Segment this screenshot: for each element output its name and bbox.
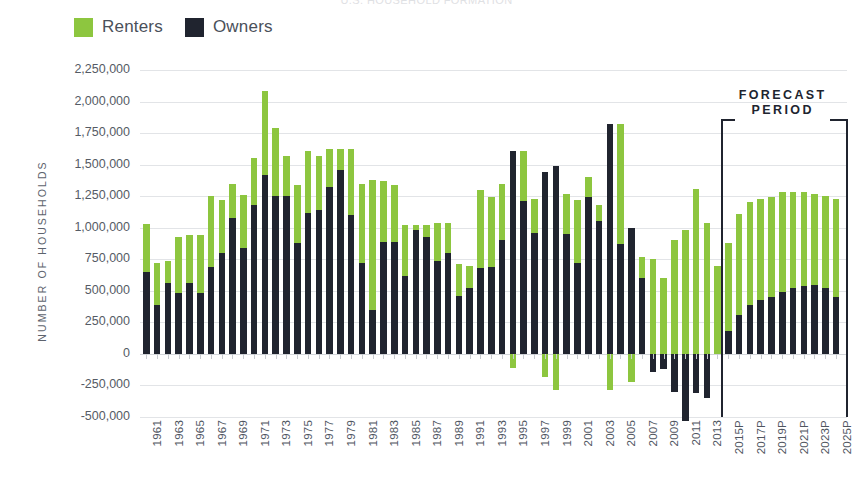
x-axis-label: 2007 xyxy=(647,420,659,446)
bar-column[interactable] xyxy=(573,70,584,417)
x-axis-label: 1997 xyxy=(539,420,551,446)
bar-column[interactable] xyxy=(692,70,703,417)
x-axis-tick-mark xyxy=(232,354,233,359)
bar-column[interactable] xyxy=(368,70,379,417)
bar-column[interactable] xyxy=(455,70,466,417)
y-axis-tick-label: 750,000 xyxy=(20,251,130,265)
plot-area: 2,250,0002,000,0001,750,0001,500,0001,25… xyxy=(140,70,847,417)
x-axis-label: 1969 xyxy=(237,420,249,446)
bar-segment-renters xyxy=(639,257,646,278)
bar-column[interactable] xyxy=(217,70,228,417)
bar-segment-renters xyxy=(369,180,376,310)
bar-column[interactable] xyxy=(530,70,541,417)
bar-column[interactable] xyxy=(228,70,239,417)
bar-column[interactable] xyxy=(444,70,455,417)
bar-segment-renters xyxy=(434,223,441,261)
bar-column[interactable] xyxy=(519,70,530,417)
bar-column[interactable] xyxy=(649,70,660,417)
x-axis-tick-mark xyxy=(276,354,277,359)
bar-column[interactable] xyxy=(358,70,369,417)
bar-column[interactable] xyxy=(390,70,401,417)
bar-column[interactable] xyxy=(207,70,218,417)
bar-column[interactable] xyxy=(562,70,573,417)
bar-column[interactable] xyxy=(584,70,595,417)
bar-column[interactable] xyxy=(476,70,487,417)
bar-segment-owners xyxy=(574,263,581,354)
bar-column[interactable] xyxy=(605,70,616,417)
bar-segment-renters xyxy=(348,149,355,215)
legend-item-renters[interactable]: Renters xyxy=(74,17,163,37)
x-axis-tick-mark xyxy=(189,354,190,359)
bar-column[interactable] xyxy=(239,70,250,417)
y-axis-tick-label: 2,000,000 xyxy=(20,94,130,108)
bar-column[interactable] xyxy=(250,70,261,417)
bar-column[interactable] xyxy=(552,70,563,417)
bar-column[interactable] xyxy=(638,70,649,417)
bar-column[interactable] xyxy=(185,70,196,417)
bar-column[interactable] xyxy=(681,70,692,417)
bar-column[interactable] xyxy=(293,70,304,417)
legend-item-owners[interactable]: Owners xyxy=(185,17,273,37)
bar-column[interactable] xyxy=(411,70,422,417)
bar-column[interactable] xyxy=(487,70,498,417)
bar-column[interactable] xyxy=(282,70,293,417)
x-axis-tick-mark xyxy=(556,354,557,359)
bar-segment-renters xyxy=(488,197,495,266)
chart-legend: Renters Owners xyxy=(74,17,273,37)
bar-column[interactable] xyxy=(541,70,552,417)
bar-segment-owners xyxy=(380,242,387,354)
bar-segment-renters xyxy=(574,200,581,263)
bar-segment-renters xyxy=(359,184,366,263)
x-axis-label: 1981 xyxy=(367,420,379,446)
bar-column[interactable] xyxy=(433,70,444,417)
bar-column[interactable] xyxy=(422,70,433,417)
legend-swatch-renters xyxy=(74,18,93,37)
bar-column[interactable] xyxy=(670,70,681,417)
bar-column[interactable] xyxy=(153,70,164,417)
bar-column[interactable] xyxy=(627,70,638,417)
bar-segment-owners xyxy=(596,221,603,353)
x-axis-tick-mark xyxy=(534,354,535,359)
x-axis-tick-mark xyxy=(545,354,546,359)
bar-column[interactable] xyxy=(616,70,627,417)
bar-column[interactable] xyxy=(401,70,412,417)
bar-column[interactable] xyxy=(379,70,390,417)
bar-column[interactable] xyxy=(498,70,509,417)
bar-segment-owners xyxy=(283,196,290,354)
x-axis-tick-mark xyxy=(394,354,395,359)
bar-segment-owners xyxy=(456,296,463,354)
bar-column[interactable] xyxy=(336,70,347,417)
x-axis-label: 1965 xyxy=(194,420,206,446)
bar-segment-owners xyxy=(337,170,344,354)
x-axis-labels: 1961196319651967196919711973197519771979… xyxy=(140,420,853,482)
x-axis-tick-mark xyxy=(664,354,665,359)
bar-segment-owners xyxy=(197,293,204,354)
bar-column[interactable] xyxy=(304,70,315,417)
bar-segment-renters xyxy=(499,184,506,241)
bar-segment-renters xyxy=(154,263,161,305)
bar-segment-renters xyxy=(251,158,258,205)
bar-column[interactable] xyxy=(595,70,606,417)
bar-column[interactable] xyxy=(347,70,358,417)
bar-column[interactable] xyxy=(325,70,336,417)
x-axis-tick-mark xyxy=(265,354,266,359)
bar-column[interactable] xyxy=(271,70,282,417)
x-axis-tick-mark xyxy=(448,354,449,359)
bar-column[interactable] xyxy=(508,70,519,417)
bar-column[interactable] xyxy=(142,70,153,417)
bar-column[interactable] xyxy=(174,70,185,417)
bar-column[interactable] xyxy=(164,70,175,417)
bar-column[interactable] xyxy=(314,70,325,417)
y-axis-tick-label: 1,500,000 xyxy=(20,157,130,171)
x-axis-tick-mark xyxy=(254,354,255,359)
bar-column[interactable] xyxy=(702,70,713,417)
y-axis-tick-label: 1,250,000 xyxy=(20,188,130,202)
bar-column[interactable] xyxy=(196,70,207,417)
x-axis-tick-mark xyxy=(567,354,568,359)
bar-column[interactable] xyxy=(261,70,272,417)
bar-column[interactable] xyxy=(465,70,476,417)
x-axis-tick-mark xyxy=(642,354,643,359)
bar-segment-owners xyxy=(693,354,700,393)
bar-segment-renters xyxy=(272,128,279,196)
bar-column[interactable] xyxy=(659,70,670,417)
